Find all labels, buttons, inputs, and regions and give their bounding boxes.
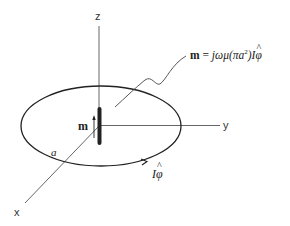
x-axis bbox=[25, 126, 99, 203]
dipole-bar bbox=[98, 107, 102, 145]
formula-lhs: m bbox=[190, 49, 200, 61]
current-label: Iφ^ bbox=[152, 168, 163, 180]
x-axis-label: x bbox=[14, 207, 20, 218]
formula-leader-line bbox=[115, 56, 186, 107]
z-axis-label: z bbox=[95, 11, 101, 22]
radius-label: a bbox=[51, 147, 57, 158]
y-axis-label: y bbox=[223, 120, 229, 131]
moment-label: m bbox=[78, 120, 88, 132]
hat-symbol: ^ bbox=[157, 161, 162, 171]
phi-unit-vector: φ^ bbox=[156, 168, 163, 180]
formula-hat-symbol: ^ bbox=[256, 43, 261, 53]
dipole-diagram bbox=[0, 0, 290, 226]
formula-equals: = bbox=[200, 49, 212, 61]
formula-rhs-suffix: )I bbox=[248, 49, 256, 61]
moment-arrow-head-icon bbox=[92, 115, 95, 120]
formula-phi-unit-vector: φ^ bbox=[255, 50, 261, 62]
current-direction-arrow-icon bbox=[141, 159, 147, 165]
formula-rhs-prefix: jωμ(πa bbox=[212, 49, 244, 61]
moment-formula: m = jωμ(πa2)Iφ^ bbox=[190, 49, 262, 61]
